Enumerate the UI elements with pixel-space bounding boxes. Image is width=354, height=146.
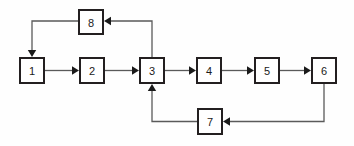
edge-line <box>226 84 324 122</box>
edge-line <box>107 21 152 57</box>
edge-n2-to-n3 <box>105 66 139 74</box>
node-label: 3 <box>149 65 155 77</box>
node-box-3[interactable]: 3 <box>140 58 164 83</box>
node-label: 8 <box>88 17 94 29</box>
edge-n1-to-n2 <box>45 66 79 74</box>
edge-line <box>152 87 197 122</box>
edge-n3-to-n4 <box>165 66 196 74</box>
arrowhead-icon <box>132 66 139 74</box>
node-label: 2 <box>89 65 95 77</box>
node-box-7[interactable]: 7 <box>198 109 222 134</box>
node-label: 5 <box>264 65 270 77</box>
node-label: 7 <box>207 116 213 128</box>
arrowhead-icon <box>104 17 111 25</box>
edge-n8-to-n1 <box>28 21 78 57</box>
arrowhead-icon <box>189 66 196 74</box>
node-box-5[interactable]: 5 <box>255 58 279 83</box>
edge-n3-to-n8 <box>104 17 152 57</box>
node-box-6[interactable]: 6 <box>312 58 336 83</box>
edge-line <box>32 21 78 54</box>
edge-n4-to-n5 <box>222 66 254 74</box>
node-box-2[interactable]: 2 <box>80 58 104 83</box>
arrowhead-icon <box>247 66 254 74</box>
node-box-4[interactable]: 4 <box>197 58 221 83</box>
node-label: 6 <box>321 65 327 77</box>
block-diagram: 12345678 <box>0 0 354 146</box>
node-box-1[interactable]: 1 <box>20 58 44 83</box>
diagram-svg-surface: 12345678 <box>0 0 354 146</box>
node-label: 4 <box>206 65 212 77</box>
arrowhead-icon <box>148 84 156 91</box>
edge-n5-to-n6 <box>280 66 311 74</box>
edge-n6-to-n7 <box>223 84 324 126</box>
node-label: 1 <box>29 65 35 77</box>
node-box-8[interactable]: 8 <box>79 10 103 34</box>
arrowhead-icon <box>223 117 230 125</box>
arrowhead-icon <box>72 66 79 74</box>
nodes-layer: 12345678 <box>20 10 336 134</box>
arrowhead-icon <box>28 50 36 57</box>
edge-n7-to-n3 <box>148 84 197 122</box>
arrowhead-icon <box>304 66 311 74</box>
